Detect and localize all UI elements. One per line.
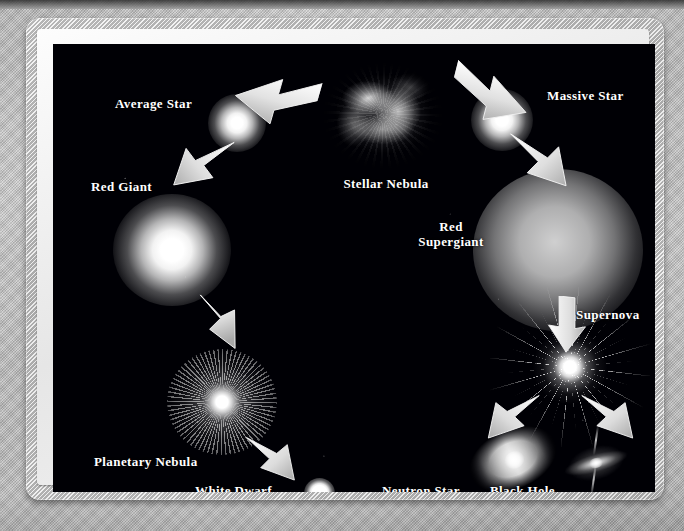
label-red-supergiant: Red Supergiant xyxy=(409,220,493,249)
arrow-to-massive-star xyxy=(445,55,537,133)
arrow-to-white-dwarf xyxy=(243,434,305,492)
nebula-filament-texture xyxy=(321,60,445,172)
arrow-to-planetary-nebula xyxy=(181,292,248,368)
top-edge-shadow xyxy=(0,0,684,9)
label-average-star: Average Star xyxy=(115,97,192,112)
label-massive-star: Massive Star xyxy=(547,89,624,104)
poster-inner-bevel: Stellar Nebula Average Star Massive Star… xyxy=(37,29,649,485)
arrow-to-supernova xyxy=(545,296,589,354)
arrow-to-red-giant xyxy=(158,131,240,214)
space-canvas: Stellar Nebula Average Star Massive Star… xyxy=(53,44,655,492)
stellar-nebula-icon xyxy=(321,60,445,172)
arrow-to-neutron-star xyxy=(477,392,543,454)
backdrop-surface: Stellar Nebula Average Star Massive Star… xyxy=(0,0,684,531)
arrow-to-red-supergiant xyxy=(505,132,579,208)
poster-frame: Stellar Nebula Average Star Massive Star… xyxy=(26,18,664,500)
white-dwarf-icon xyxy=(304,478,335,492)
label-planetary-nebula: Planetary Nebula xyxy=(94,455,198,470)
label-red-giant: Red Giant xyxy=(91,180,152,195)
label-stellar-nebula: Stellar Nebula xyxy=(326,177,446,192)
bottom-edge-shadow xyxy=(0,491,684,531)
arrow-to-black-hole xyxy=(578,392,644,454)
